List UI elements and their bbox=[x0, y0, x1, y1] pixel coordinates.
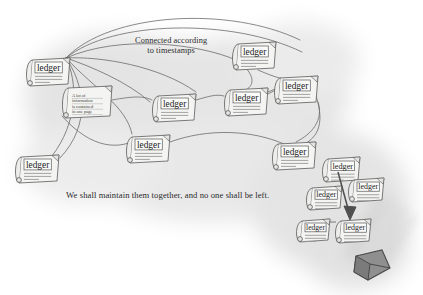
down-arrow-icon bbox=[338, 172, 356, 220]
new-block-layer bbox=[0, 0, 423, 295]
ledger-network-illustration: ledgerA lot ofinformationis containedin … bbox=[0, 0, 423, 295]
caption-connected-according-to-timestamps: Connected according to timestamps bbox=[135, 36, 207, 55]
caption-we-shall-maintain: We shall maintain them together, and no … bbox=[66, 191, 269, 201]
block-shape bbox=[354, 250, 390, 280]
